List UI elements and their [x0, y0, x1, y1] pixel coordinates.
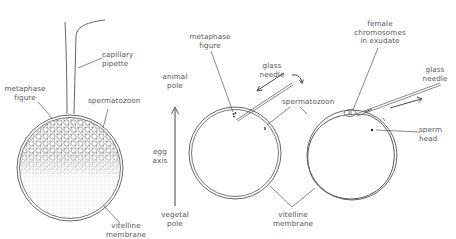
glass-needle-3: [356, 83, 441, 116]
egg-3: [307, 110, 397, 200]
rotation-arrow: [292, 75, 304, 84]
egg-2: [189, 107, 281, 199]
egg-axis-arrow: [172, 107, 179, 206]
label-metaphase-figure-1: metaphase figure: [4, 85, 46, 102]
withdraw-direction-arrow: [390, 97, 422, 108]
label-vitelline-membrane-1: vitelline membrane: [104, 222, 148, 239]
label-spermatozoon-2: spermatozoon: [282, 98, 335, 107]
sperm-head-dot: [371, 129, 373, 131]
label-vegetal-pole: vegetal pole: [152, 211, 198, 228]
female-chromosomes-exudate: [344, 110, 356, 117]
egg-1: [17, 114, 123, 224]
vitelline-membrane-leader: [270, 186, 315, 207]
label-vitelline-membrane-shared: vitelline membrane: [270, 211, 316, 228]
label-female-chromosomes: female chromosomes in exudate: [352, 20, 408, 46]
label-animal-pole: animal pole: [152, 73, 198, 90]
label-egg-axis: egg axis: [148, 148, 172, 165]
label-sperm-head: sperm head: [419, 126, 442, 143]
metaphase-figure-2: [233, 112, 237, 117]
label-glass-needle-3: glass needle: [418, 66, 452, 83]
vitelline-membrane-2: [189, 107, 281, 199]
vitelline-membrane-3: [307, 110, 397, 200]
label-capillary-pipette: capillary pipette: [102, 51, 133, 68]
label-spermatozoon-1: spermatozoon: [88, 97, 141, 106]
label-metaphase-figure-2: metaphase figure: [188, 33, 232, 50]
label-glass-needle-2: glass needle: [256, 62, 288, 79]
